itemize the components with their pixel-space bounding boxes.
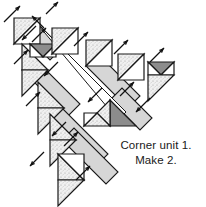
caption: Corner unit 1. Make 2. [110,138,202,168]
corner-unit-diagram: Corner unit 1. Make 2. [0,0,206,207]
pressing-arrow [114,40,128,54]
caption-line-make-count: Make 2. [110,153,202,168]
caption-line-unit-name: Corner unit 1. [110,138,202,153]
quilt-diagram-canvas [0,0,206,207]
pressing-arrow [30,152,44,166]
triangle-units [14,18,174,206]
triangle-unit [58,180,84,206]
pressing-arrow [150,48,164,62]
pressing-arrow [46,2,58,14]
triangle-unit [148,75,174,101]
